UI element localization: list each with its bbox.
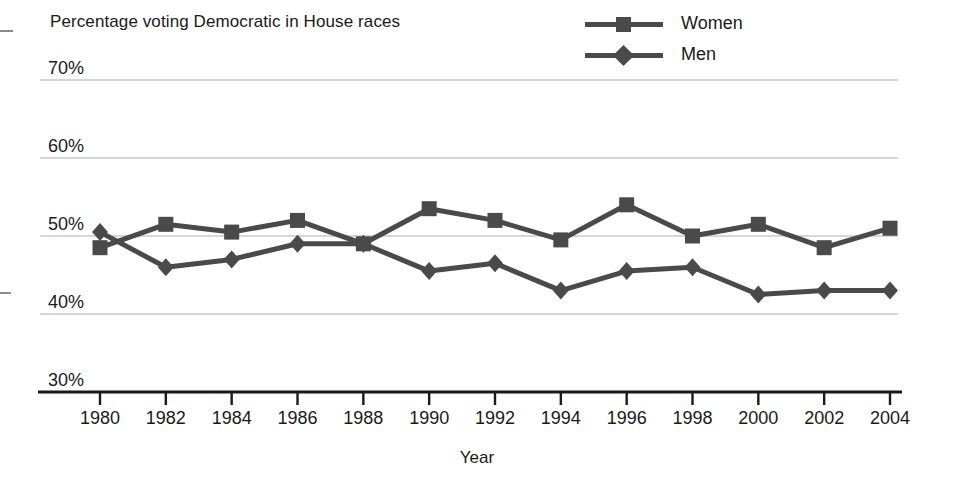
- x-tick-label: 1994: [541, 408, 581, 429]
- x-tick-label: 1984: [212, 408, 252, 429]
- y-tick-label: 60%: [48, 136, 84, 157]
- x-tick-label: 1980: [80, 408, 120, 429]
- y-tick-label: 40%: [48, 292, 84, 313]
- x-tick-label: 1986: [277, 408, 317, 429]
- y-tick-label: 30%: [48, 370, 84, 391]
- x-tick-label: 1992: [475, 408, 515, 429]
- x-tick-label: 1990: [409, 408, 449, 429]
- plot-area: 30%40%50%60%70% 198019821984198619881990…: [0, 0, 954, 490]
- x-axis-title: Year: [460, 448, 494, 468]
- y-tick-label: 50%: [48, 214, 84, 235]
- x-tick-label: 2002: [804, 408, 844, 429]
- x-tick-label: 1988: [343, 408, 383, 429]
- x-tick-label: 2004: [870, 408, 910, 429]
- y-tick-label: 70%: [48, 58, 84, 79]
- x-tick-label: 2000: [738, 408, 778, 429]
- x-tick-label: 1998: [672, 408, 712, 429]
- x-tick-label: 1996: [607, 408, 647, 429]
- chart-container: Percentage voting Democratic in House ra…: [0, 0, 954, 490]
- x-tick-label: 1982: [146, 408, 186, 429]
